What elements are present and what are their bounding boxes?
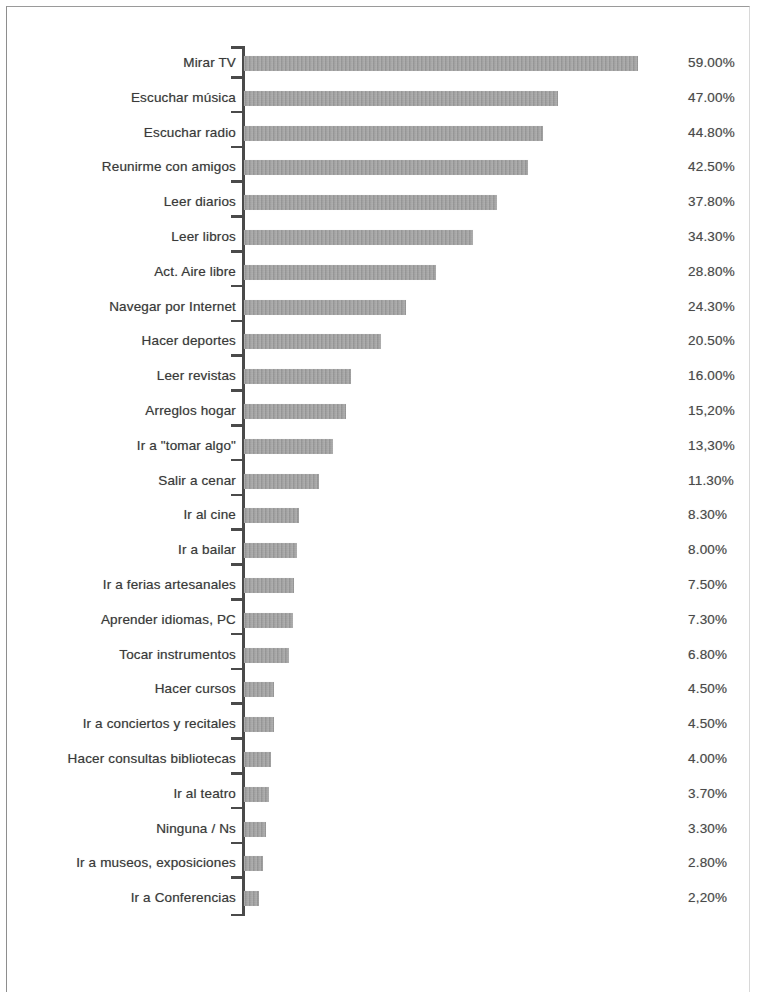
value-label: 37.80% (688, 194, 750, 209)
bar-row: Tocar instrumentos6.80% (0, 638, 764, 674)
bar (244, 752, 271, 767)
axis-tick (231, 250, 243, 253)
bar-row: Escuchar música47.00% (0, 81, 764, 117)
value-label: 8.00% (688, 542, 750, 557)
horizontal-bar-chart: Mirar TV59.00%Escuchar música47.00%Escuc… (0, 0, 764, 1006)
bar-row: Ir al teatro3.70% (0, 777, 764, 813)
axis-tick (231, 633, 243, 636)
category-label: Hacer consultas bibliotecas (68, 751, 236, 766)
bar-row: Mirar TV59.00% (0, 46, 764, 82)
bar (244, 822, 266, 837)
bar (244, 334, 381, 349)
bar-row: Ir a conciertos y recitales4.50% (0, 707, 764, 743)
category-label: Hacer deportes (142, 333, 236, 348)
axis-tick (231, 702, 243, 705)
bar-row: Ninguna / Ns3.30% (0, 812, 764, 848)
axis-tick (231, 111, 243, 114)
bar-row: Act. Aire libre28.80% (0, 255, 764, 291)
value-label: 6.80% (688, 647, 750, 662)
value-label: 3.30% (688, 821, 750, 836)
bar (244, 891, 259, 906)
category-label: Tocar instrumentos (119, 647, 236, 662)
axis-tick (231, 76, 243, 79)
value-label: 13,30% (688, 438, 750, 453)
bar (244, 160, 528, 175)
value-label: 15,20% (688, 403, 750, 418)
value-label: 20.50% (688, 333, 750, 348)
bar (244, 787, 269, 802)
value-label: 4.00% (688, 751, 750, 766)
bar (244, 56, 638, 71)
category-label: Ninguna / Ns (156, 821, 236, 836)
bar-row: Salir a cenar11.30% (0, 464, 764, 500)
category-label: Ir a museos, exposiciones (76, 855, 236, 870)
category-label: Leer revistas (157, 368, 236, 383)
bar (244, 856, 263, 871)
bar-row: Escuchar radio44.80% (0, 116, 764, 152)
value-label: 2,20% (688, 890, 750, 905)
category-label: Arreglos hogar (145, 403, 236, 418)
bar (244, 543, 297, 558)
bar (244, 126, 543, 141)
axis-tick (231, 876, 243, 879)
axis-tick (231, 528, 243, 531)
bar (244, 508, 299, 523)
value-label: 28.80% (688, 264, 750, 279)
value-label: 4.50% (688, 716, 750, 731)
category-label: Ir al cine (183, 507, 236, 522)
bar (244, 230, 473, 245)
category-label: Ir a "tomar algo" (137, 438, 236, 453)
axis-tick (231, 285, 243, 288)
value-label: 16.00% (688, 368, 750, 383)
bar-row: Ir a Conferencias2,20% (0, 881, 764, 917)
value-label: 8.30% (688, 507, 750, 522)
value-label: 44.80% (688, 125, 750, 140)
bar-row: Ir a "tomar algo"13,30% (0, 429, 764, 465)
bar-row: Ir a ferias artesanales7.50% (0, 568, 764, 604)
bar-row: Navegar por Internet24.30% (0, 290, 764, 326)
value-label: 24.30% (688, 299, 750, 314)
category-label: Ir a conciertos y recitales (83, 716, 236, 731)
value-label: 34.30% (688, 229, 750, 244)
value-label: 7.30% (688, 612, 750, 627)
axis-tick (231, 668, 243, 671)
bar-row: Arreglos hogar15,20% (0, 394, 764, 430)
bar-row: Leer diarios37.80% (0, 185, 764, 221)
axis-tick (231, 842, 243, 845)
axis-tick (231, 494, 243, 497)
category-label: Ir a Conferencias (131, 890, 236, 905)
axis-tick (231, 737, 243, 740)
bar-row: Ir a museos, exposiciones2.80% (0, 846, 764, 882)
category-label: Aprender idiomas, PC (101, 612, 236, 627)
axis-tick (231, 146, 243, 149)
bar-row: Hacer deportes20.50% (0, 324, 764, 360)
bar (244, 682, 274, 697)
axis-tick (231, 563, 243, 566)
bar (244, 91, 558, 106)
bar (244, 265, 436, 280)
bar (244, 439, 333, 454)
category-label: Salir a cenar (158, 473, 236, 488)
axis-tick (231, 459, 243, 462)
axis-tick (231, 598, 243, 601)
bar (244, 578, 294, 593)
axis-tick (231, 772, 243, 775)
axis-tick (231, 389, 243, 392)
value-label: 7.50% (688, 577, 750, 592)
category-label: Navegar por Internet (109, 299, 236, 314)
category-label: Escuchar radio (144, 125, 236, 140)
axis-tick (231, 320, 243, 323)
bar-row: Aprender idiomas, PC7.30% (0, 603, 764, 639)
value-label: 11.30% (688, 473, 750, 488)
category-label: Leer diarios (164, 194, 236, 209)
category-label: Reunirme con amigos (102, 159, 236, 174)
bar (244, 717, 274, 732)
category-label: Leer libros (171, 229, 236, 244)
bar-row: Hacer cursos4.50% (0, 672, 764, 708)
bar-row: Leer libros34.30% (0, 220, 764, 256)
value-label: 59.00% (688, 55, 750, 70)
value-label: 47.00% (688, 90, 750, 105)
category-label: Ir al teatro (173, 786, 236, 801)
bar (244, 195, 497, 210)
bar (244, 404, 346, 419)
